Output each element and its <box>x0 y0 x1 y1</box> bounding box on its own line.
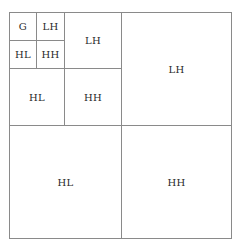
subband-hh2: HH <box>64 68 122 126</box>
subband-label: HH <box>84 92 102 103</box>
subband-hl3: HL <box>9 40 37 69</box>
subband-hh3: HH <box>36 40 65 69</box>
subband-hh1: HH <box>121 125 232 239</box>
subband-label: HH <box>41 49 59 60</box>
subband-hl2: HL <box>9 68 65 126</box>
subband-hl1: HL <box>9 125 122 239</box>
subband-label: HH <box>167 177 185 188</box>
subband-label: HL <box>15 49 31 60</box>
subband-label: HL <box>29 92 45 103</box>
subband-g: G <box>9 12 37 41</box>
subband-label: LH <box>85 35 101 46</box>
subband-label: HL <box>58 177 74 188</box>
subband-lh2: LH <box>64 12 122 69</box>
subband-label: G <box>19 21 27 32</box>
subband-lh3: LH <box>36 12 65 41</box>
subband-label: LH <box>43 21 59 32</box>
subband-lh1: LH <box>121 12 232 126</box>
subband-label: LH <box>169 64 185 75</box>
